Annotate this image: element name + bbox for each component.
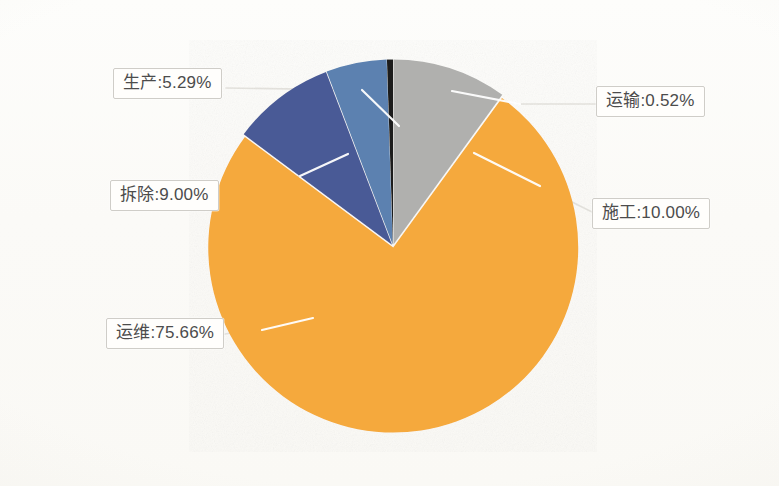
pie-label-construction: 施工:10.00% [592,198,710,229]
pie-slice-group [208,59,578,432]
pie-label-demolition: 拆除:9.00% [110,180,219,211]
pie-chart-figure: 生产:5.29% 运输:0.52% 拆除:9.00% 施工:10.00% 运维:… [0,0,779,486]
pie-label-operation: 运维:75.66% [106,318,224,349]
pie-label-transport: 运输:0.52% [596,86,705,117]
pie-label-production: 生产:5.29% [113,68,222,99]
